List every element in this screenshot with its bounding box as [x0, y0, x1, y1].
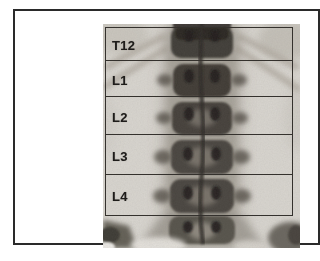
vertebra-label-l2: L2 — [106, 107, 128, 125]
roi-row-l3: L3 — [106, 135, 292, 175]
roi-row-l1: L1 — [106, 61, 292, 97]
roi-row-l4: L4 — [106, 175, 292, 214]
vertebra-label-l1: L1 — [106, 70, 128, 88]
vertebra-label-l4: L4 — [106, 186, 128, 204]
roi-row-l2: L2 — [106, 97, 292, 135]
roi-row-t12: T12 — [106, 28, 292, 61]
vertebra-label-l3: L3 — [106, 146, 128, 164]
figure-frame: T12 L1 L2 L3 L4 — [13, 9, 315, 245]
roi-grid: T12 L1 L2 L3 L4 — [105, 27, 293, 216]
spine-radiograph: T12 L1 L2 L3 L4 — [103, 24, 300, 248]
vertebra-label-t12: T12 — [106, 35, 135, 53]
